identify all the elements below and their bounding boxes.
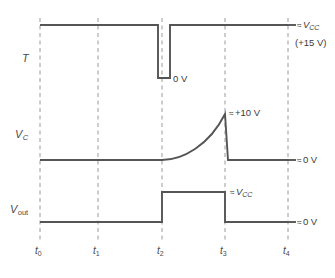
value-label-output-low: ≈0 V	[297, 216, 317, 227]
axis-label-output: Vout	[10, 203, 28, 217]
tick-label-t2: t2	[157, 245, 164, 257]
tick-label-t1: t1	[93, 245, 100, 257]
waveform-capacitor	[40, 114, 288, 160]
tick-t3-sub: 3	[223, 250, 227, 257]
value-label-trigger-low: 0 V	[173, 73, 187, 84]
tick-t4-sub: 4	[286, 250, 290, 257]
output-vcc-sub: CC	[242, 191, 252, 198]
gridlines	[40, 18, 288, 240]
tick-t2-sub: 2	[160, 250, 164, 257]
tick-t1-sub: 1	[96, 250, 100, 257]
axis-label-capacitor-sub: C	[22, 133, 28, 142]
tick-t0-sub: 0	[38, 250, 42, 257]
trigger-vcc-sub: CC	[309, 24, 319, 31]
value-label-output-vcc: ≈VCC	[230, 186, 252, 198]
value-label-trigger-volts: (+15 V)	[295, 37, 326, 48]
timing-diagram	[0, 0, 335, 278]
axis-label-output-sub: out	[17, 208, 28, 217]
value-label-capacitor-low: ≈0 V	[297, 154, 317, 165]
waveform-trigger	[40, 25, 288, 78]
capacitor-peak-volts: +10 V	[235, 107, 260, 118]
output-low-volts: 0 V	[303, 216, 317, 227]
capacitor-low-volts: 0 V	[303, 154, 317, 165]
tick-label-t4: t4	[283, 245, 290, 257]
axis-label-capacitor: VC	[15, 128, 28, 142]
tick-label-t0: t0	[35, 245, 42, 257]
tick-label-t3: t3	[220, 245, 227, 257]
axis-label-trigger: T	[22, 52, 29, 64]
value-label-trigger-vcc: ≈VCC	[297, 19, 319, 31]
label-connectors	[288, 25, 296, 222]
value-label-capacitor-peak: ≈+10 V	[229, 107, 260, 118]
